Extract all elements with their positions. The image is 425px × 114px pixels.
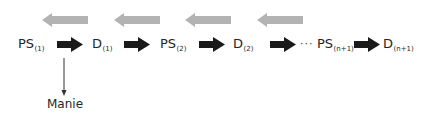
forward-arrow-icon [199, 37, 225, 52]
node-d-2: D(2) [233, 37, 253, 56]
node-ps-2: PS(2) [160, 37, 187, 56]
node-d-n1: D(n+1) [383, 37, 414, 56]
node-ps-1: PS(1) [18, 37, 45, 56]
backward-arrow-icon [114, 13, 160, 27]
backward-arrow-icon [185, 13, 231, 27]
forward-arrow-icon [124, 37, 150, 52]
node-d-1: D(1) [92, 37, 112, 56]
forward-arrow-icon [270, 37, 296, 52]
forward-arrow-icon [354, 37, 380, 52]
ellipsis: ··· [300, 37, 314, 50]
node-ps-n1: PS(n+1) [317, 37, 354, 56]
backward-arrow-icon [257, 13, 303, 27]
down-arrow-icon [60, 58, 68, 96]
branch-label-manie: Manie [47, 98, 83, 111]
backward-arrow-icon [42, 13, 88, 27]
forward-arrow-icon [57, 37, 83, 52]
